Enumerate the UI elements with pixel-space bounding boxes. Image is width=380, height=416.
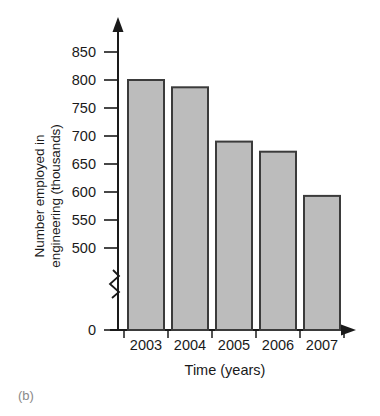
y-axis-arrow-icon bbox=[113, 17, 124, 32]
bar-2005[interactable] bbox=[216, 142, 252, 330]
panel-label: (b) bbox=[18, 388, 34, 403]
bar-2004[interactable] bbox=[172, 87, 208, 330]
chart-figure: Number employed in engineering (thousand… bbox=[0, 0, 380, 416]
bar-2007[interactable] bbox=[304, 196, 340, 330]
bar-2006[interactable] bbox=[260, 152, 296, 330]
y-axis bbox=[113, 17, 124, 330]
x-axis-title: Time (years) bbox=[105, 362, 345, 378]
bar-series bbox=[128, 80, 340, 330]
x-tick-label-2007: 2007 bbox=[296, 336, 348, 354]
bar-2003[interactable] bbox=[128, 80, 164, 330]
x-axis-tick-labels: 2003 2004 2005 2006 2007 bbox=[110, 336, 340, 358]
